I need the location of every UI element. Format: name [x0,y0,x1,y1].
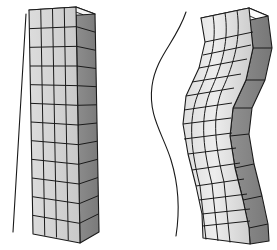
figure-canvas [0,0,277,250]
undeformed-front-face [29,7,80,243]
figure-root [0,0,277,250]
